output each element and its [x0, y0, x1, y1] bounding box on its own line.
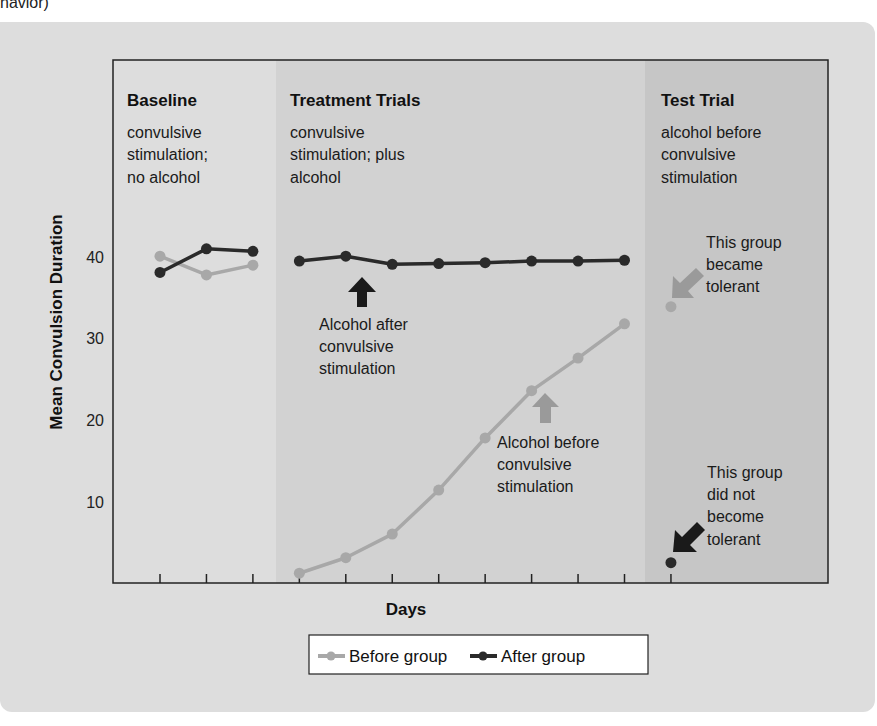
chart: Baseline convulsive stimulation; no alco…: [0, 0, 877, 726]
data-point: [665, 301, 676, 312]
test-desc-1: alcohol before: [661, 124, 762, 141]
test-desc-3: stimulation: [661, 169, 737, 186]
baseline-desc-1: convulsive: [127, 124, 202, 141]
treatment-desc-3: alcohol: [290, 169, 341, 186]
data-point: [387, 529, 398, 540]
data-point: [155, 251, 166, 262]
y-tick-30: 30: [86, 330, 104, 347]
tolerant-annotation-2: became: [706, 256, 763, 273]
data-point: [247, 246, 258, 257]
after-annotation-2: convulsive: [319, 338, 394, 355]
after-annotation-1: Alcohol after: [319, 316, 409, 333]
data-point: [294, 256, 305, 267]
y-tick-40: 40: [86, 249, 104, 266]
data-point: [201, 243, 212, 254]
before-annotation-1: Alcohol before: [497, 434, 599, 451]
data-point: [573, 353, 584, 364]
legend-before-label: Before group: [349, 647, 447, 666]
not-tolerant-annotation-1: This group: [707, 464, 783, 481]
not-tolerant-annotation-4: tolerant: [707, 531, 761, 548]
test-desc-2: convulsive: [661, 146, 736, 163]
data-point: [619, 255, 630, 266]
before-annotation-2: convulsive: [497, 456, 572, 473]
after-annotation-3: stimulation: [319, 360, 395, 377]
before-annotation-3: stimulation: [497, 478, 573, 495]
data-point: [619, 318, 630, 329]
y-tick-20: 20: [86, 412, 104, 429]
data-point: [573, 256, 584, 267]
data-point: [201, 269, 212, 280]
data-point: [480, 257, 491, 268]
data-point: [340, 251, 351, 262]
data-point: [247, 260, 258, 271]
data-point: [665, 557, 676, 568]
legend-after-label: After group: [501, 647, 585, 666]
y-tick-10: 10: [86, 494, 104, 511]
data-point: [526, 385, 537, 396]
y-axis-label: Mean Convulsion Duration: [47, 214, 66, 429]
tolerant-annotation-1: This group: [706, 234, 782, 251]
legend: Before group After group: [309, 635, 648, 674]
not-tolerant-annotation-2: did not: [707, 486, 756, 503]
data-point: [340, 552, 351, 563]
test-title: Test Trial: [661, 91, 734, 110]
data-point: [294, 568, 305, 579]
treatment-desc-2: stimulation; plus: [290, 146, 405, 163]
treatment-desc-1: convulsive: [290, 124, 365, 141]
tolerant-annotation-3: tolerant: [706, 278, 760, 295]
x-axis-label: Days: [386, 600, 427, 619]
data-point: [480, 432, 491, 443]
treatment-title: Treatment Trials: [290, 91, 420, 110]
data-point: [387, 259, 398, 270]
data-point: [526, 256, 537, 267]
baseline-desc-2: stimulation;: [127, 146, 208, 163]
baseline-title: Baseline: [127, 91, 197, 110]
data-point: [433, 485, 444, 496]
not-tolerant-annotation-3: become: [707, 508, 764, 525]
baseline-desc-3: no alcohol: [127, 169, 200, 186]
data-point: [433, 258, 444, 269]
data-point: [155, 267, 166, 278]
